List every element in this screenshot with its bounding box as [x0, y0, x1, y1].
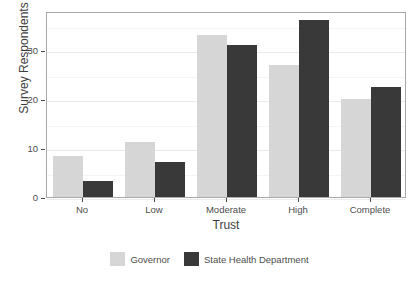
bar[interactable] [197, 35, 227, 197]
y-tick-label: 20 [8, 94, 38, 105]
x-tick-mark [370, 198, 371, 202]
legend-swatch-icon [184, 252, 199, 266]
x-tick-mark [154, 198, 155, 202]
y-tick-mark [41, 149, 45, 150]
bar[interactable] [125, 142, 155, 197]
y-tick-mark [41, 100, 45, 101]
bar-group [47, 13, 119, 197]
x-axis-title: Trust [46, 218, 406, 232]
chart-legend: GovernorState Health Department [0, 252, 419, 266]
legend-label: Governor [130, 254, 170, 265]
plot-panel [46, 12, 406, 198]
bar[interactable] [155, 162, 185, 197]
x-tick-mark [298, 198, 299, 202]
x-tick-label: Low [145, 204, 162, 215]
bar-group [263, 13, 335, 197]
bar[interactable] [53, 156, 83, 197]
y-axis-title: Survey Respondents (%) [17, 0, 31, 137]
x-tick-mark [226, 198, 227, 202]
bar[interactable] [341, 99, 371, 197]
y-tick-label: 30 [8, 45, 38, 56]
legend-item[interactable]: Governor [110, 252, 170, 266]
bar[interactable] [371, 87, 401, 197]
x-tick-label: Complete [350, 204, 391, 215]
bar[interactable] [269, 65, 299, 197]
legend-label: State Health Department [204, 254, 309, 265]
bar[interactable] [299, 20, 329, 197]
x-tick-label: Moderate [206, 204, 246, 215]
legend-item[interactable]: State Health Department [184, 252, 309, 266]
bar-chart: Survey Respondents (%) 0102030 NoLowMode… [0, 0, 419, 282]
y-tick-mark [41, 198, 45, 199]
x-tick-mark [82, 198, 83, 202]
x-tick-label: High [288, 204, 308, 215]
bar-group [335, 13, 407, 197]
y-tick-label: 10 [8, 143, 38, 154]
bar-group [119, 13, 191, 197]
y-tick-mark [41, 51, 45, 52]
y-tick-label: 0 [8, 192, 38, 203]
bar[interactable] [227, 45, 257, 197]
bar-series-container [47, 13, 405, 197]
legend-swatch-icon [110, 252, 125, 266]
x-tick-label: No [76, 204, 88, 215]
bar[interactable] [83, 181, 113, 197]
bar-group [191, 13, 263, 197]
